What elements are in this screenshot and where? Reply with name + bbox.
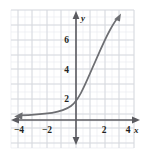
x-tick-label-4: 4 — [126, 125, 131, 135]
x-tick-label-neg2: −2 — [42, 125, 52, 135]
x-tick-label-2: 2 — [102, 125, 107, 135]
x-axis-label: x — [133, 125, 139, 135]
y-tick-label-6: 6 — [64, 35, 69, 45]
x-tick-label-neg4: −4 — [14, 125, 24, 135]
y-tick-label-2: 2 — [64, 94, 69, 104]
coordinate-plane: −4 −2 2 4 2 4 6 y x — [0, 0, 145, 155]
graph-figure: −4 −2 2 4 2 4 6 y x — [0, 0, 145, 155]
y-tick-label-4: 4 — [64, 65, 69, 75]
